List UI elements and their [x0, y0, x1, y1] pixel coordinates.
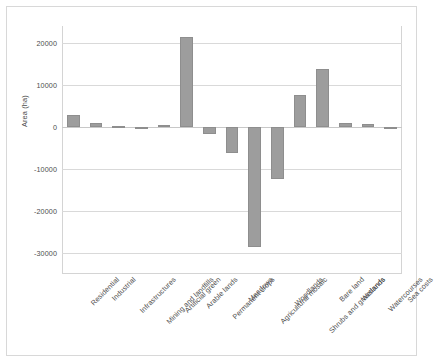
bar-slot — [289, 26, 312, 274]
bar-slot — [334, 26, 357, 274]
y-axis-tick-label: -30000 — [34, 248, 57, 257]
y-axis-tick-label: -20000 — [34, 206, 57, 215]
bar[interactable] — [271, 127, 284, 180]
x-axis-tick-labels: ResidentialIndustrialInfrastructuresMini… — [62, 275, 402, 357]
x-axis-tick-label: Meadows — [246, 275, 275, 304]
chart-container: Area (ha) 20000100000-10000-20000-30000 … — [6, 6, 417, 356]
bar[interactable] — [316, 69, 329, 127]
bar-slot — [379, 26, 402, 274]
bar-slot — [266, 26, 289, 274]
bar[interactable] — [294, 95, 307, 127]
bar-slot — [221, 26, 244, 274]
bar[interactable] — [112, 126, 125, 128]
bar[interactable] — [339, 123, 352, 127]
y-axis-title: Area (ha) — [20, 95, 29, 127]
bar[interactable] — [362, 124, 375, 127]
bar-slot — [243, 26, 266, 274]
plot-area: 20000100000-10000-20000-30000 — [62, 26, 402, 274]
bar-series — [62, 26, 402, 274]
y-axis-tick-label: -10000 — [34, 164, 57, 173]
bar-slot — [153, 26, 176, 274]
bar[interactable] — [135, 127, 148, 129]
bar[interactable] — [384, 127, 397, 129]
bar-slot — [357, 26, 380, 274]
bar-slot — [198, 26, 221, 274]
y-axis-tick-label: 20000 — [37, 38, 58, 47]
bar-slot — [130, 26, 153, 274]
y-axis-tick-label: 0 — [53, 122, 57, 131]
x-axis-tick-label: Infrastructures — [138, 275, 178, 315]
bar[interactable] — [67, 115, 80, 127]
bar[interactable] — [248, 127, 261, 247]
bar-slot — [107, 26, 130, 274]
bar-slot — [175, 26, 198, 274]
y-axis-tick-label: 10000 — [37, 80, 58, 89]
bar[interactable] — [90, 123, 103, 127]
bar[interactable] — [226, 127, 239, 153]
bar-slot — [85, 26, 108, 274]
x-axis-tick-label: Woodlands — [293, 275, 325, 307]
bar[interactable] — [203, 127, 216, 134]
bar[interactable] — [158, 125, 171, 127]
bar-slot — [62, 26, 85, 274]
bar[interactable] — [180, 37, 193, 127]
bar-slot — [311, 26, 334, 274]
